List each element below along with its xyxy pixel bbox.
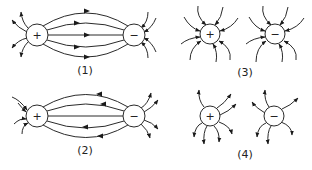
- panel-1-positive-sign: +: [32, 29, 41, 42]
- panel-3: + − (3): [181, 6, 304, 79]
- panel-1-field-lines: [43, 9, 128, 60]
- panel-2-positive-sign: +: [32, 110, 41, 123]
- panel-4-positive-sign: +: [205, 110, 214, 123]
- panel-2-field-lines: [43, 92, 128, 139]
- panel-2-negative-sign: −: [129, 110, 138, 123]
- panel-3-label: (3): [237, 66, 253, 79]
- panel-2-label: (2): [77, 144, 93, 157]
- panel-2: + − (2): [12, 92, 158, 158]
- panel-4-label: (4): [237, 148, 253, 161]
- panel-1-label: (1): [77, 64, 93, 77]
- electric-field-diagram: + − (1) +: [0, 0, 312, 170]
- panel-4: + − (4): [194, 90, 298, 161]
- panel-4-negative-sign: −: [269, 110, 278, 123]
- panel-1: + − (1): [12, 9, 156, 78]
- panel-1-negative-sign: −: [129, 29, 138, 42]
- panel-3-positive-sign: +: [205, 28, 214, 41]
- panel-3-negative-sign: −: [270, 28, 279, 41]
